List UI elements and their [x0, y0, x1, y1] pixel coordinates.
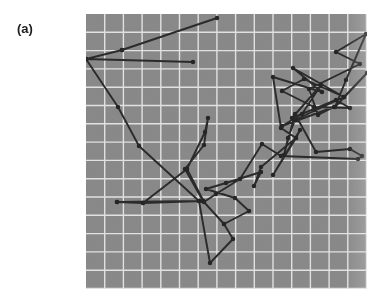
walk-vertex — [141, 201, 145, 205]
walk-vertex — [233, 196, 237, 200]
walk-vertex — [314, 150, 318, 154]
walk-vertex — [316, 113, 320, 117]
walk-vertex — [319, 83, 323, 87]
walk-vertex — [260, 142, 264, 146]
walk-vertex — [222, 222, 226, 226]
figure-root: (a) — [0, 0, 389, 297]
walk-vertex — [120, 48, 124, 52]
walk-vertex — [307, 87, 311, 91]
walk-vertex — [116, 105, 120, 109]
walk-vertex — [206, 116, 210, 120]
walk-vertex — [215, 16, 219, 20]
walk-vertex — [197, 199, 201, 203]
walk-vertex — [208, 261, 212, 265]
random-walk-trace — [86, 14, 367, 289]
walk-vertex — [358, 62, 362, 66]
walk-vertex — [320, 90, 324, 94]
plot-panel — [86, 14, 367, 289]
walk-vertex — [224, 181, 228, 185]
walk-vertex — [203, 130, 207, 134]
walk-vertex — [201, 199, 205, 203]
walk-vertex — [191, 60, 195, 64]
walk-polyline — [86, 18, 367, 263]
walk-vertex — [291, 66, 295, 70]
walk-vertex — [202, 143, 206, 147]
walk-vertex — [271, 75, 275, 79]
walk-vertex — [259, 170, 263, 174]
walk-vertex — [342, 95, 346, 99]
walk-vertex — [259, 165, 263, 169]
walk-vertex — [204, 187, 208, 191]
walk-vertex — [300, 112, 304, 116]
walk-vertex — [334, 98, 338, 102]
walk-vertex — [252, 184, 256, 188]
walk-vertex — [137, 144, 141, 148]
walk-vertex — [348, 106, 352, 110]
walk-vertex — [293, 118, 297, 122]
walk-vertex — [231, 237, 235, 241]
walk-vertex — [348, 147, 352, 151]
walk-vertex — [356, 157, 360, 161]
walk-vertex — [344, 78, 348, 82]
walk-vertex — [238, 177, 242, 181]
walk-vertex — [247, 209, 251, 213]
walk-vertex — [302, 77, 306, 81]
walk-vertex — [115, 200, 119, 204]
walk-vertex — [293, 112, 297, 116]
walk-vertex — [298, 128, 302, 132]
walk-vertex — [280, 89, 284, 93]
walk-vertex — [271, 173, 275, 177]
walk-vertex — [279, 154, 283, 158]
walk-vertex — [294, 136, 298, 140]
walk-vertex — [280, 124, 284, 128]
walk-vertex — [333, 105, 337, 109]
walk-vertex — [334, 50, 338, 54]
walk-vertex — [185, 167, 189, 171]
walk-vertex — [286, 136, 290, 140]
walk-vertex — [360, 154, 364, 158]
walk-vertex — [312, 105, 316, 109]
walk-vertex — [214, 192, 218, 196]
panel-label: (a) — [17, 21, 33, 37]
